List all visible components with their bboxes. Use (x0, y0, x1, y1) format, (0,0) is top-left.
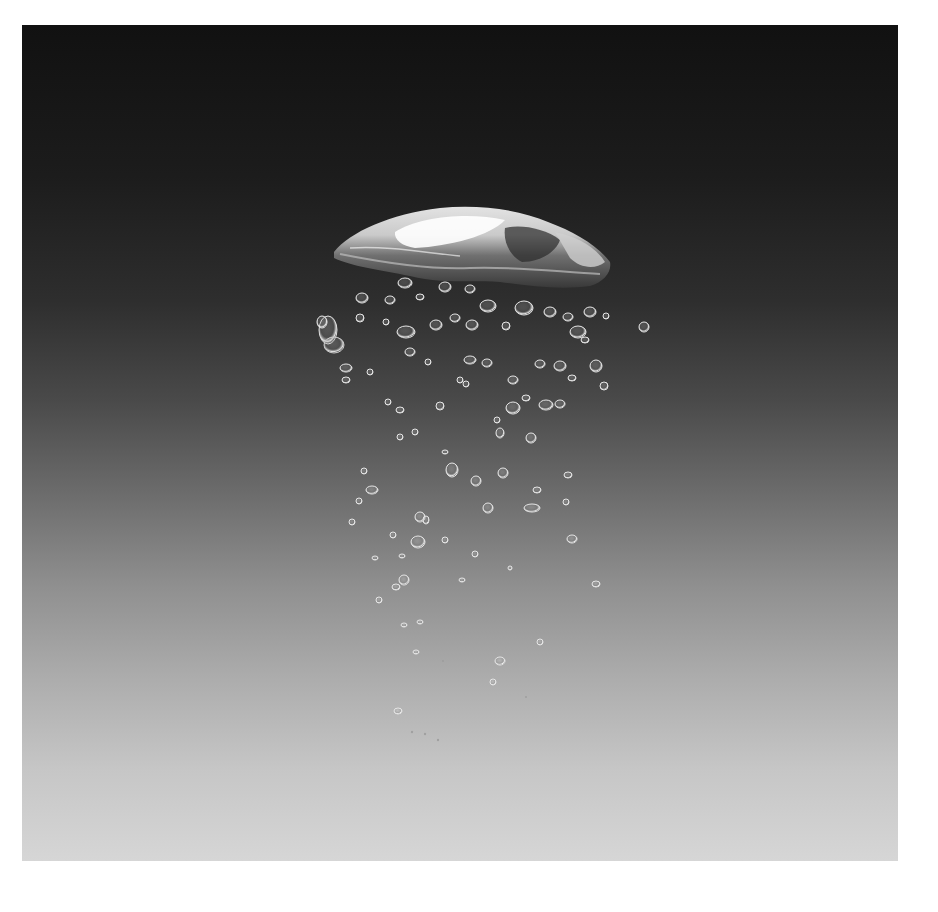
bubbles-photo: Large dome-shaped bubble at top with a t… (22, 25, 898, 861)
tiny-specks (411, 660, 527, 741)
bubble-trail (340, 278, 649, 714)
bubbles-illustration (22, 25, 898, 861)
large-bubble (334, 207, 610, 288)
bubble-cluster-left (317, 316, 344, 353)
